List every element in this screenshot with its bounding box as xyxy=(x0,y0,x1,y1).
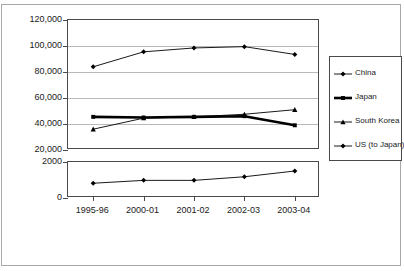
plot-area-lower xyxy=(67,161,319,197)
data-point xyxy=(293,123,297,127)
plot-area-upper xyxy=(67,19,319,149)
legend-marker-square-icon xyxy=(333,90,353,102)
legend-label: China xyxy=(355,68,376,77)
series-us-to-japan xyxy=(91,169,298,186)
x-tick-label: 2000-01 xyxy=(126,205,159,215)
data-point xyxy=(192,45,197,50)
series-layer-upper xyxy=(68,20,320,150)
legend-item-south-korea[interactable]: South Korea xyxy=(333,113,399,127)
x-tick-label: 2002-03 xyxy=(227,205,260,215)
data-point xyxy=(192,178,197,183)
y-tick-label: 2000 xyxy=(42,156,62,166)
legend-label: Japan xyxy=(355,92,377,101)
legend-item-japan[interactable]: Japan xyxy=(333,89,377,103)
series-layer-lower xyxy=(68,162,320,198)
legend-marker-diamond-icon xyxy=(333,66,353,78)
data-point xyxy=(141,49,146,54)
data-point xyxy=(91,181,96,186)
legend-marker-diamond-icon xyxy=(333,138,353,150)
legend-marker-triangle-icon xyxy=(333,114,353,126)
x-tick-label: 2003-04 xyxy=(277,205,310,215)
data-point xyxy=(242,174,247,179)
y-tick xyxy=(63,162,68,163)
legend-item-us-to-japan[interactable]: US (to Japan) xyxy=(333,137,404,151)
x-tick-label: 2001-02 xyxy=(176,205,209,215)
data-point xyxy=(242,44,247,49)
y-tick xyxy=(63,198,68,199)
data-point xyxy=(292,169,297,174)
data-point xyxy=(91,64,96,69)
chart-legend: ChinaJapanSouth KoreaUS (to Japan) xyxy=(329,56,402,161)
chart-figure: 20,00040,00060,00080,000100,000120,000 0… xyxy=(0,0,404,271)
series-china xyxy=(91,44,298,69)
legend-item-china[interactable]: China xyxy=(333,65,376,79)
data-point xyxy=(292,52,297,57)
legend-label: US (to Japan) xyxy=(355,140,404,149)
y-tick xyxy=(63,150,68,151)
data-point xyxy=(91,115,95,119)
y-axis-labels-lower: 02000 xyxy=(0,0,62,271)
data-point xyxy=(141,178,146,183)
y-tick-label: 0 xyxy=(57,192,62,202)
legend-label: South Korea xyxy=(355,116,399,125)
x-tick-label: 1995-96 xyxy=(76,205,109,215)
